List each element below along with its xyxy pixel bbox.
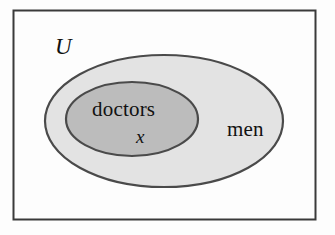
- set-label-men: men: [227, 119, 264, 140]
- set-label-doctors: doctors: [92, 99, 155, 120]
- universe-label: U: [55, 35, 72, 58]
- euler-diagram-canvas: [0, 0, 335, 235]
- element-label-x: x: [136, 127, 144, 146]
- euler-diagram-figure: U doctors x men: [0, 0, 335, 235]
